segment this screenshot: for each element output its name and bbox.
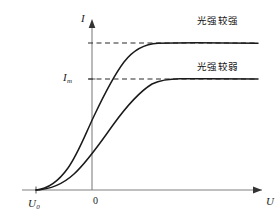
annotation-strong-intensity: 光强较强 [197, 16, 239, 26]
y-axis-label: I [81, 13, 85, 24]
stopping-voltage-symbol: U [28, 197, 36, 209]
photoelectric-iv-chart: I U U0 Im 0 光强较强 光强较弱 [0, 0, 280, 223]
chart-canvas [0, 0, 280, 223]
x-axis-arrow-icon [253, 187, 262, 194]
x-axis-label: U [266, 196, 274, 207]
saturation-current-label: Im [63, 72, 72, 83]
origin-label: 0 [93, 196, 98, 206]
curve-weak-intensity [36, 79, 258, 190]
saturation-current-subscript: m [67, 77, 72, 85]
stopping-voltage-subscript: 0 [36, 203, 40, 211]
stopping-voltage-label: U0 [28, 198, 39, 209]
y-axis-arrow-icon [89, 19, 96, 28]
annotation-weak-intensity: 光强较弱 [197, 62, 239, 72]
